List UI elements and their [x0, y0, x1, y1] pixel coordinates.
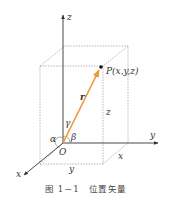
axes	[24, 15, 158, 175]
z-axis-label: z	[66, 12, 72, 22]
figure-caption: 图 1－1 位置矢量	[0, 182, 172, 194]
alpha-label: α	[50, 134, 56, 144]
point-p	[99, 65, 103, 69]
caption-title: 位置矢量	[89, 184, 127, 194]
gamma-label: γ	[65, 118, 71, 128]
caption-number: 图 1－1	[45, 184, 79, 194]
edge-y-label: y	[68, 164, 75, 174]
angle-arcs	[55, 136, 70, 147]
origin-label: O	[59, 147, 67, 157]
edge-z-label: z	[105, 107, 111, 117]
edge-x-label: x	[118, 151, 123, 161]
beta-label: β	[70, 132, 76, 142]
position-vector-diagram: z y x O P(x,y,z) r γ β α z x y	[0, 0, 172, 205]
point-p-label: P(x,y,z)	[105, 66, 139, 76]
dashed-box	[40, 46, 128, 164]
x-axis	[24, 143, 63, 175]
x-axis-label: x	[16, 169, 21, 179]
position-vector	[63, 70, 99, 143]
y-axis-label: y	[149, 130, 156, 140]
